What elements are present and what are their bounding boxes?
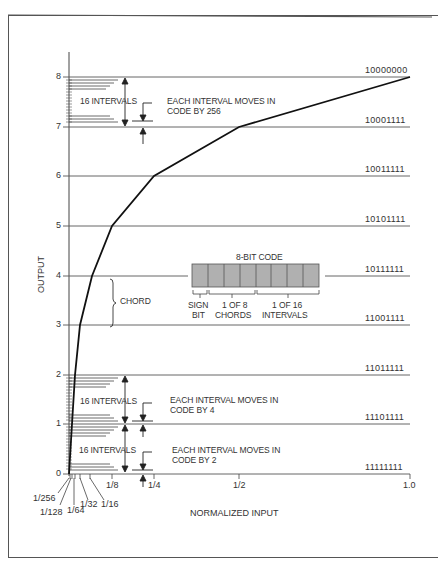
code-label-4: 10111111 [365, 264, 404, 274]
x-axis-label: NORMALIZED INPUT [190, 508, 279, 518]
code-label-3: 11001111 [365, 313, 405, 323]
y-axis-label: OUTPUT [36, 256, 46, 293]
y-tick-1: 1 [56, 418, 61, 428]
intervals-line1: 1 OF 16 [272, 300, 302, 310]
code-brackets [193, 290, 319, 298]
annotation-code-2-line1: EACH INTERVAL MOVES IN [172, 445, 280, 455]
annotation-16-intervals-mid: 16 INTERVALS [80, 396, 137, 406]
code-label-1: 11101111 [365, 412, 404, 422]
annotation-code-4-line2: CODE BY 4 [170, 405, 214, 415]
annotation-16-intervals-bottom: 16 INTERVALS [79, 445, 136, 455]
x-tick-1-256: 1/256 [33, 493, 56, 503]
annotation-code-256-line2: CODE BY 256 [167, 106, 221, 116]
chord-brace [110, 279, 116, 327]
annotation-code-4-line1: EACH INTERVAL MOVES IN [170, 395, 278, 405]
sign-bit-line2: BIT [192, 310, 205, 320]
x-tick-1-16: 1/16 [101, 499, 119, 509]
y-tick-8: 8 [56, 71, 61, 81]
y-tick-2: 2 [56, 369, 61, 379]
y-tick-3: 3 [56, 319, 61, 329]
sign-bit-line1: SIGN [188, 300, 208, 310]
x-tick-1-128: 1/128 [40, 507, 63, 517]
code-label-0: 11111111 [365, 462, 403, 472]
y-tick-4: 4 [56, 270, 61, 280]
intervals-line2: INTERVALS [262, 310, 308, 320]
code-label-2: 11011111 [365, 363, 404, 373]
y-tick-0: 0 [56, 468, 61, 478]
code-label-8: 10000000 [365, 65, 407, 75]
eight-bit-code-title: 8-BIT CODE [236, 252, 283, 262]
annotation-code-2-line2: CODE BY 2 [172, 455, 216, 465]
annotation-16-intervals-top: 16 INTERVALS [80, 96, 137, 106]
chords-line2: CHORDS [215, 310, 251, 320]
code-label-6: 10011111 [365, 164, 405, 174]
eight-bit-code-box [192, 264, 319, 287]
code-label-7: 10001111 [365, 115, 405, 125]
x-tick-1-0: 1.0 [403, 480, 416, 490]
x-tick-1-2: 1/2 [233, 480, 246, 490]
annotation-code-256-line1: EACH INTERVAL MOVES IN [167, 96, 275, 106]
y-tick-6: 6 [56, 170, 61, 180]
chords-line1: 1 OF 8 [222, 300, 247, 310]
code-label-5: 10101111 [365, 214, 405, 224]
chord-label: CHORD [120, 296, 151, 306]
x-tick-1-8: 1/8 [106, 480, 119, 490]
x-tick-1-32: 1/32 [80, 499, 98, 509]
y-tick-7: 7 [56, 121, 61, 131]
interval-arrows [122, 78, 153, 487]
y-tick-5: 5 [56, 220, 61, 230]
x-tick-1-4: 1/4 [148, 480, 161, 490]
